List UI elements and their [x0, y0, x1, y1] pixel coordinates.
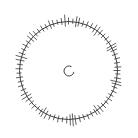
dial-svg [0, 0, 138, 138]
dial-diagram [0, 0, 138, 138]
